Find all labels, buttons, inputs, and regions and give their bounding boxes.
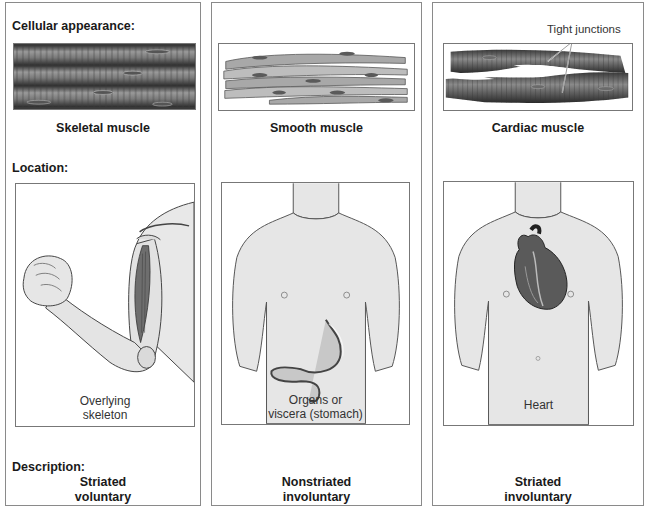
panel-smooth: Smooth muscle Organs or viscera (stomach…	[211, 2, 422, 506]
location-label: Location:	[12, 161, 68, 175]
skeletal-muscle-caption: Skeletal muscle	[6, 121, 200, 135]
smooth-muscle-cells-illustration	[218, 43, 415, 111]
skeletal-location-caption-2: skeleton	[16, 408, 194, 422]
smooth-description-line1: Nonstriated	[212, 475, 421, 490]
cardiac-location-caption: Heart	[444, 398, 633, 412]
cellular-appearance-label: Cellular appearance:	[12, 19, 135, 33]
smooth-muscle-caption: Smooth muscle	[212, 121, 421, 135]
smooth-location-caption-2: viscera (stomach)	[222, 407, 409, 421]
arm-location-illustration: Overlying skeleton	[15, 183, 195, 427]
panel-cardiac: Tight junctions	[432, 2, 644, 506]
cardiac-description-line2: involuntary	[433, 490, 643, 505]
skeletal-description-line1: Striated	[6, 475, 200, 490]
tight-junctions-annotation: Tight junctions	[547, 23, 621, 35]
heart-location-illustration: Heart	[443, 181, 634, 426]
stomach-location-illustration: Organs or viscera (stomach)	[221, 182, 410, 425]
skeletal-description-line2: voluntary	[6, 490, 200, 505]
skeletal-muscle-cells-illustration	[13, 43, 196, 110]
smooth-location-caption-1: Organs or	[222, 393, 409, 407]
skeletal-location-caption-1: Overlying	[16, 394, 194, 408]
panel-skeletal: Cellular appearance:	[5, 2, 201, 506]
description-label: Description:	[12, 460, 85, 474]
smooth-description-line2: involuntary	[212, 490, 421, 505]
cardiac-muscle-caption: Cardiac muscle	[433, 121, 643, 135]
cardiac-description-line1: Striated	[433, 475, 643, 490]
cardiac-muscle-cells-illustration	[443, 43, 633, 111]
